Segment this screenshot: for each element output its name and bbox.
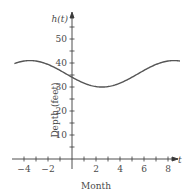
x-tick-label: 6 — [141, 164, 147, 174]
tick-labels: −4−224681020304050 — [17, 34, 171, 174]
x-tick-label: 2 — [93, 164, 99, 174]
x-tick-label: 4 — [117, 164, 123, 174]
y-axis-title: Depth (feet) — [50, 82, 60, 137]
y-axis-arrow-icon — [70, 12, 74, 18]
y-axis-name: h(t) — [52, 14, 69, 24]
axes — [12, 12, 178, 169]
x-axis-name: t — [178, 155, 182, 165]
x-axis-title: Month — [81, 181, 111, 191]
x-tick-label: −2 — [41, 164, 54, 174]
x-tick-label: 8 — [165, 164, 171, 174]
depth-chart: −4−224681020304050 Depth (feet) Month h(… — [0, 0, 189, 196]
y-tick-label: 50 — [56, 34, 68, 44]
y-tick-label: 40 — [56, 58, 68, 68]
ticks — [24, 27, 168, 162]
data-line — [14, 61, 180, 87]
x-tick-label: −4 — [17, 164, 31, 174]
